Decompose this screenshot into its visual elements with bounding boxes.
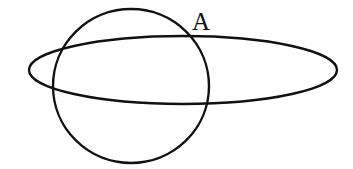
ellipse-shape <box>29 36 337 104</box>
diagram-canvas: A <box>0 0 353 169</box>
diagram-svg <box>0 0 353 169</box>
circle-shape <box>53 9 209 163</box>
point-label-a: A <box>192 9 210 34</box>
